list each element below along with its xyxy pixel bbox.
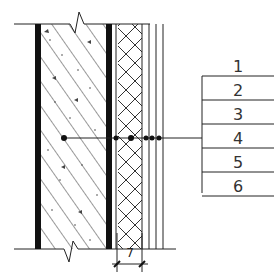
wall-section-drawing: 1 2 3 4 5 6 7 xyxy=(0,0,280,276)
legend-label-1: 1 xyxy=(233,57,243,76)
membrane-thick-line xyxy=(106,24,112,249)
concrete-layer xyxy=(40,24,106,249)
inner-thick-line xyxy=(35,24,41,249)
dimension-label: 7 xyxy=(126,246,134,260)
legend-label-5: 5 xyxy=(233,153,243,172)
legend-label-2: 2 xyxy=(233,81,243,100)
legend-label-6: 6 xyxy=(233,177,243,196)
legend-label-3: 3 xyxy=(233,105,243,124)
legend-label-4: 4 xyxy=(233,129,243,148)
legend-table: 1 2 3 4 5 6 xyxy=(202,57,274,196)
